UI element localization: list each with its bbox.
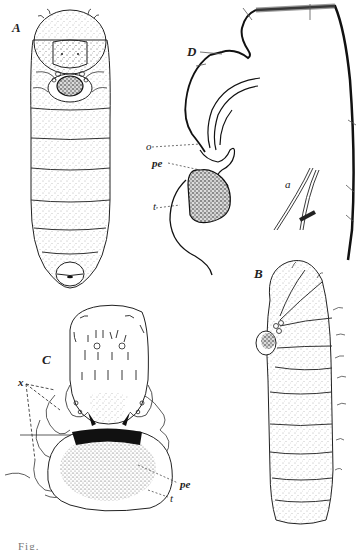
panel-d-section: [152, 4, 356, 275]
panel-b-larva-lateral: [256, 260, 346, 524]
annotation-t-c: t: [170, 492, 173, 504]
panel-a-larva-ventral: [31, 9, 110, 288]
panel-c-head-enlarged: [5, 305, 178, 511]
annotation-a: a: [285, 178, 291, 190]
annotation-o: o: [146, 140, 152, 152]
figure-caption-truncated: Fig.: [18, 540, 358, 550]
panel-label-c: C: [42, 352, 51, 368]
panel-label-a: A: [12, 20, 21, 36]
annotation-t-d: t: [153, 200, 156, 212]
panel-label-b: B: [254, 266, 263, 282]
annotation-pe-c: pe: [180, 478, 190, 490]
annotation-x: x: [18, 376, 24, 388]
panel-label-d: D: [187, 44, 196, 60]
annotation-pe-d: pe: [152, 157, 162, 169]
